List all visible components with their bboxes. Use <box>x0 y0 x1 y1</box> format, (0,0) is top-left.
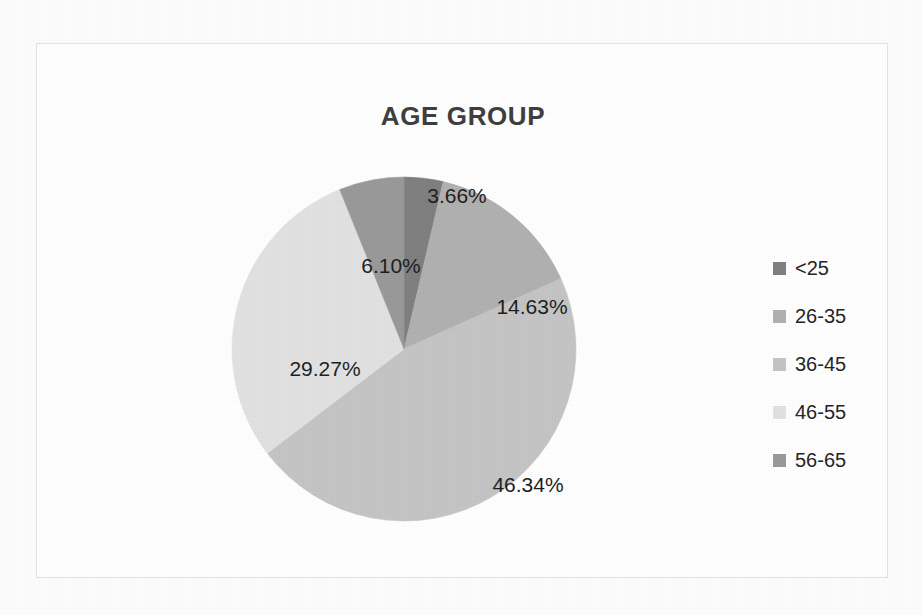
pie-chart: 3.66%14.63%46.34%29.27%6.10% <box>231 176 577 522</box>
pie-svg <box>231 176 577 522</box>
chart-legend: <2526-3536-4546-5556-65 <box>773 244 883 484</box>
legend-item[interactable]: 46-55 <box>773 388 883 436</box>
chart-screenshot: AGE GROUP 3.66%14.63%46.34%29.27%6.10% <… <box>0 0 922 615</box>
legend-item[interactable]: <25 <box>773 244 883 292</box>
pie-data-label: 29.27% <box>289 357 360 381</box>
legend-swatch-icon <box>773 358 786 371</box>
chart-frame: AGE GROUP 3.66%14.63%46.34%29.27%6.10% <… <box>36 43 888 578</box>
pie-slices <box>232 177 576 521</box>
legend-item-label: 36-45 <box>795 353 846 376</box>
pie-data-label: 14.63% <box>496 295 567 319</box>
legend-item[interactable]: 26-35 <box>773 292 883 340</box>
pie-data-label: 3.66% <box>427 184 487 208</box>
legend-item-label: 46-55 <box>795 401 846 424</box>
legend-item-label: 26-35 <box>795 305 846 328</box>
legend-swatch-icon <box>773 454 786 467</box>
pie-data-label: 6.10% <box>361 254 421 278</box>
legend-item-label: <25 <box>795 257 829 280</box>
legend-item[interactable]: 56-65 <box>773 436 883 484</box>
legend-swatch-icon <box>773 406 786 419</box>
legend-item-label: 56-65 <box>795 449 846 472</box>
legend-item[interactable]: 36-45 <box>773 340 883 388</box>
chart-title: AGE GROUP <box>37 101 889 132</box>
pie-data-label: 46.34% <box>492 473 563 497</box>
legend-swatch-icon <box>773 262 786 275</box>
legend-swatch-icon <box>773 310 786 323</box>
